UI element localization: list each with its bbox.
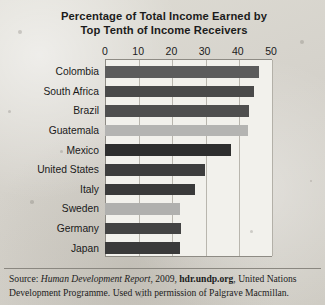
category-label-south-africa: South Africa — [0, 86, 99, 97]
category-label-italy: Italy — [0, 184, 99, 195]
bar-japan — [105, 242, 180, 254]
category-label-brazil: Brazil — [0, 105, 99, 116]
bar-row: Italy — [0, 178, 325, 198]
category-label-mexico: Mexico — [0, 145, 99, 156]
bar-italy — [105, 184, 195, 196]
bar-colombia — [105, 66, 259, 78]
bar-row: Sweden — [0, 197, 325, 217]
category-label-japan: Japan — [0, 243, 99, 254]
bar-row: South Africa — [0, 80, 325, 100]
bar-united-states — [105, 164, 205, 176]
source-divider — [4, 268, 321, 269]
bar-brazil — [105, 105, 249, 117]
bar-row: Germany — [0, 217, 325, 237]
x-axis-tick-labels: 01020304050 — [0, 45, 325, 59]
source-report-title: Human Development Report — [41, 273, 151, 284]
category-label-united-states: United States — [0, 164, 99, 175]
bar-row: Mexico — [0, 138, 325, 158]
chart-title-line-1: Percentage of Total Income Earned by — [61, 10, 267, 22]
category-label-guatemala: Guatemala — [0, 125, 99, 136]
category-label-colombia: Colombia — [0, 66, 99, 77]
bar-row: Colombia — [0, 60, 325, 80]
bar-germany — [105, 223, 181, 235]
bar-row: Brazil — [0, 99, 325, 119]
bar-guatemala — [105, 125, 248, 137]
category-label-sweden: Sweden — [0, 203, 99, 214]
x-tick-label-50: 50 — [265, 45, 277, 57]
category-label-germany: Germany — [0, 223, 99, 234]
bar-row: Japan — [0, 236, 325, 256]
bar-row: Guatemala — [0, 119, 325, 139]
chart-title-line-2: Top Tenth of Income Receivers — [30, 23, 298, 37]
x-tick-label-40: 40 — [232, 45, 244, 57]
axis-line-bottom — [105, 256, 272, 257]
x-tick-label-0: 0 — [102, 45, 108, 57]
chart-title: Percentage of Total Income Earned by Top… — [30, 9, 298, 37]
bar-south-africa — [105, 86, 254, 98]
x-tick-label-30: 30 — [199, 45, 211, 57]
source-year: , 2009, — [151, 273, 180, 284]
x-tick-label-10: 10 — [132, 45, 144, 57]
bar-mexico — [105, 144, 231, 156]
bar-chart-figure: Percentage of Total Income Earned by Top… — [0, 0, 325, 305]
source-url: hdr.undp.org — [179, 273, 233, 284]
source-prefix: Source: — [9, 273, 41, 284]
x-tick-label-20: 20 — [166, 45, 178, 57]
source-note: Source: Human Development Report, 2009, … — [9, 272, 317, 299]
bar-sweden — [105, 203, 180, 215]
bar-row: United States — [0, 158, 325, 178]
